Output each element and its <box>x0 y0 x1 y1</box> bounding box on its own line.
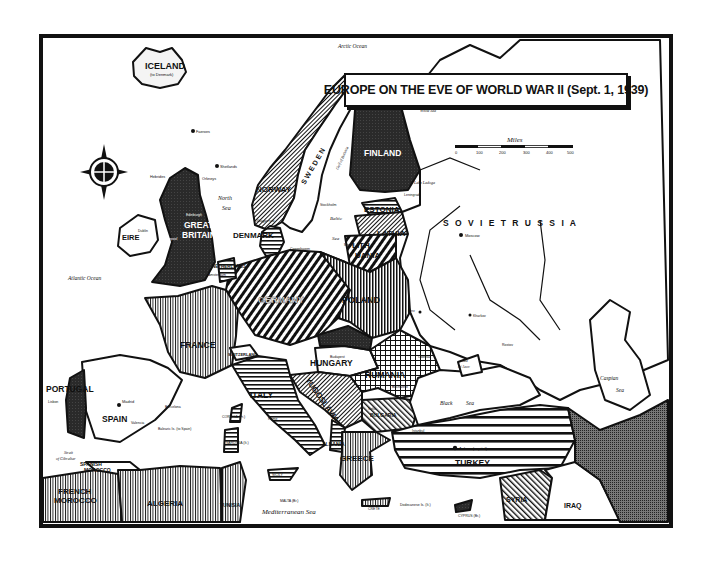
label-syria: SYRIA <box>506 496 527 503</box>
label-caspian-1: Caspian <box>600 375 619 381</box>
label-spanish-morocco-2: MOROCCO <box>84 467 111 473</box>
svg-text:500: 500 <box>567 150 574 155</box>
label-portugal: PORTUGAL <box>46 384 94 394</box>
label-north-sea-1: North <box>217 195 232 201</box>
label-baltic-2: Sea <box>332 236 340 241</box>
label-poland: POLAND <box>342 295 381 305</box>
city-rome: Rome <box>268 417 277 421</box>
label-latvia: LATVIA <box>377 229 406 238</box>
city-bucharest: Bucharest <box>392 385 408 389</box>
label-sardinia: SARDINIA (It.) <box>226 441 249 445</box>
city-amsterdam: Amsterdam <box>208 273 226 277</box>
city-copenhagen: Copenhagen <box>290 247 310 251</box>
label-spain: SPAIN <box>102 414 127 424</box>
label-hungary: HUNGARY <box>310 358 353 368</box>
label-sicily: SICILY <box>272 473 283 477</box>
label-norway: NORWAY <box>256 185 292 194</box>
city-rostov: Rostov <box>502 343 513 347</box>
label-greece: GREECE <box>340 454 374 463</box>
label-iceland-sub: (to Denmark) <box>150 72 174 77</box>
label-arctic-ocean: Arctic Ocean <box>337 43 367 49</box>
island-hebrides: Hebrides <box>150 175 165 179</box>
label-white-sea: White Sea <box>420 108 436 113</box>
label-estonia: ESTONIA <box>364 205 400 214</box>
city-ankara: Ankara (capital) <box>459 446 488 451</box>
label-tunisia: TUNISIA <box>220 502 240 508</box>
algeria <box>118 466 222 522</box>
label-algeria: ALGERIA <box>147 499 183 508</box>
island-orkneys: Orkneys <box>202 177 216 181</box>
portugal <box>66 370 86 438</box>
map-title-box: EUROPE ON THE EVE OF WORLD WAR II (Sept.… <box>344 73 628 107</box>
label-denmark: DENMARK <box>233 231 274 240</box>
crete <box>362 498 390 506</box>
city-moscow: Moscow <box>465 233 480 238</box>
city-sofia: Sofia <box>368 407 376 411</box>
city-valencia: Valencia <box>131 421 144 425</box>
label-skagerrak: Skagerrak <box>256 218 275 223</box>
city-liverpool: Liverpool <box>163 237 177 241</box>
scale-label: Miles <box>506 136 523 144</box>
label-gibraltar-1: Strait <box>64 450 74 455</box>
label-black-sea-2: Sea <box>466 400 474 406</box>
label-balearic: Balearic Is. (to Spain) <box>158 427 191 431</box>
label-rumania: RUMANIA <box>365 370 405 380</box>
city-kharkov: Kharkov <box>473 314 486 318</box>
label-soviet-russia: S O V I E T R U S S I A <box>443 218 578 228</box>
city-dublin: Dublin <box>138 229 148 233</box>
city-kiev: Kiev <box>408 309 415 313</box>
svg-text:200: 200 <box>499 150 506 155</box>
label-north-sea-2: Sea <box>222 205 231 211</box>
label-black-sea-1: Black <box>440 400 453 406</box>
svg-text:400: 400 <box>546 150 553 155</box>
label-italy: ITALY <box>250 390 273 400</box>
label-great-britain-2: BRITAIN <box>182 230 216 240</box>
city-odessa: Odessa <box>418 355 430 359</box>
label-caspian-2: Sea <box>616 387 624 393</box>
city-stockholm: Stockholm <box>320 203 336 207</box>
label-azov-2: of Azov <box>458 364 470 369</box>
label-albania: ALBANIA <box>322 441 345 447</box>
map-title: EUROPE ON THE EVE OF WORLD WAR II (Sept.… <box>324 83 648 97</box>
label-iceland: ICELAND <box>145 61 185 71</box>
city-budapest: Budapest <box>330 355 345 359</box>
city-istanbul: Istanbul <box>412 429 424 433</box>
island-faeroes: Faeroes <box>196 130 210 134</box>
label-bulgaria: BULGARIA <box>370 412 397 418</box>
label-crete: CRETE <box>368 507 381 511</box>
label-lake-ladoga: Lake Ladoga <box>413 180 435 185</box>
label-gibraltar-2: of Gibraltar <box>56 456 76 461</box>
label-iraq: IRAQ <box>564 502 582 510</box>
svg-text:100: 100 <box>476 150 483 155</box>
label-netherlands: NETHERLANDS <box>212 264 246 269</box>
label-france: FRANCE <box>180 340 216 350</box>
city-memel: Memel <box>344 243 355 247</box>
label-malta: MALTA (Br.) <box>280 499 299 503</box>
label-germany: GERMANY <box>258 295 304 305</box>
label-french-morocco-2: MOROCCO <box>54 496 97 505</box>
city-leningrad: Leningrad <box>404 193 420 197</box>
label-azov-1: Sea <box>462 358 468 363</box>
label-mediterranean: Mediterranean Sea <box>261 508 316 516</box>
label-finland: FINLAND <box>364 148 401 158</box>
label-baltic-1: Baltic <box>330 216 343 221</box>
label-lithuania-2: UANIA <box>355 251 381 260</box>
sardinia <box>224 428 238 452</box>
netherlands <box>218 258 236 282</box>
city-edinburgh: Edinburgh <box>186 213 202 217</box>
label-lithuania-1: LITH- <box>352 241 373 250</box>
city-madrid: Madrid <box>122 399 134 404</box>
syria <box>500 470 552 520</box>
label-atlantic-ocean: Atlantic Ocean <box>67 275 101 281</box>
label-french-morocco-1: FRENCH <box>58 487 92 496</box>
label-great-britain-1: GREAT <box>184 220 214 230</box>
city-barcelona: Barcelona <box>165 405 181 409</box>
label-turkey: TURKEY <box>455 458 490 468</box>
label-dodecanese: Dodecanese Is. (It.) <box>400 503 431 507</box>
label-cyprus: CYPRUS (Br.) <box>458 514 480 518</box>
svg-text:300: 300 <box>523 150 530 155</box>
label-corsica: CORSICA (Fr.) <box>222 415 245 419</box>
island-shetlands: Shetlands <box>220 165 237 169</box>
label-switzerland: SWITZERLAND <box>228 352 257 357</box>
label-eire: EIRE <box>122 233 140 242</box>
